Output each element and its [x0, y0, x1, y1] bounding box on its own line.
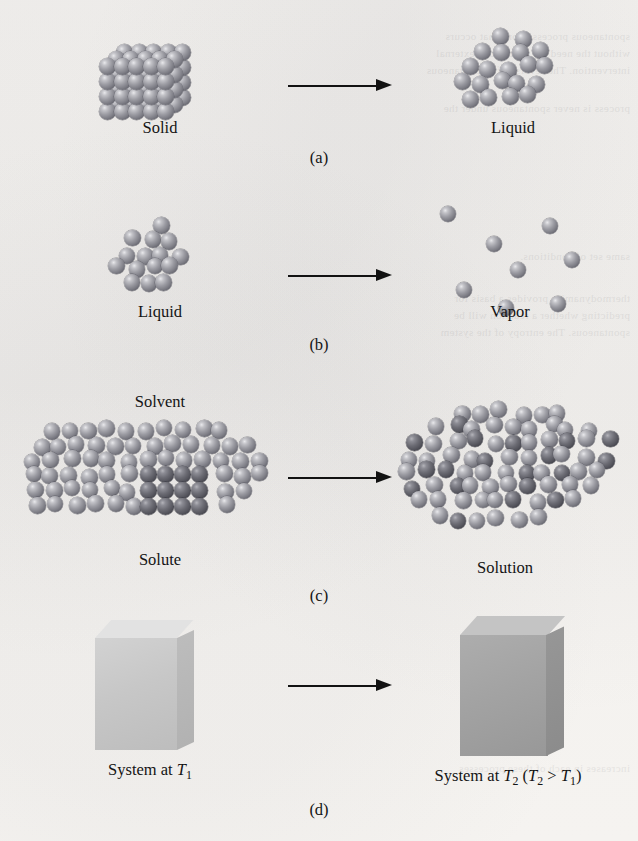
- particle: [540, 476, 557, 493]
- panel-d-left-label-sub: 1: [186, 768, 192, 782]
- particle: [222, 438, 239, 455]
- particle: [553, 446, 570, 463]
- particle: [216, 465, 233, 482]
- solute-particle: [140, 482, 157, 499]
- particle: [493, 44, 510, 61]
- vapor-scatter-illustration: [432, 200, 592, 310]
- panel-d-left-label-prefix: System at: [108, 760, 177, 779]
- panel-b-left-label: Liquid: [100, 302, 220, 322]
- panel-b-right-label: Vapor: [450, 302, 570, 322]
- particle: [486, 417, 503, 434]
- solute-particle: [174, 482, 191, 499]
- particle: [183, 436, 200, 453]
- particle: [44, 423, 61, 440]
- solvent-solute-illustration: [22, 422, 282, 547]
- solute-particle: [438, 461, 455, 478]
- panel-d-right-cmp-op: >: [543, 766, 561, 785]
- solute-particle: [174, 498, 191, 515]
- particle: [432, 507, 449, 524]
- panel-a-letter: (a): [289, 148, 349, 168]
- panel-d-left-label: System at T1: [65, 760, 235, 785]
- particle: [157, 88, 174, 105]
- panel-b-letter: (b): [289, 335, 349, 355]
- particle: [27, 482, 44, 499]
- panel-d-right-label-symbol: T: [503, 766, 512, 785]
- particle: [565, 490, 582, 507]
- particle: [251, 465, 268, 482]
- particle: [474, 43, 491, 60]
- panel-d-right-cmp-symbol2: T: [561, 766, 570, 785]
- solution-illustration: [398, 404, 613, 554]
- panel-a-left-label: Solid: [100, 118, 220, 138]
- particle: [26, 466, 43, 483]
- particle: [239, 437, 256, 454]
- panel-d-right-paren-close: ): [576, 766, 582, 785]
- box-top-face: [95, 620, 193, 638]
- liquid-cluster-illustration-b: [100, 220, 220, 300]
- particle: [462, 91, 479, 108]
- panel-d-right-cmp-symbol: T: [528, 766, 537, 785]
- box-side-face-warm: [546, 627, 564, 756]
- panel-c-right-label: Solution: [440, 558, 570, 578]
- solute-particle: [602, 431, 619, 448]
- particle: [98, 420, 115, 437]
- panel-c-solvent-label: Solvent: [90, 392, 230, 412]
- particle: [541, 431, 558, 448]
- particle: [488, 436, 505, 453]
- solute-particle: [191, 466, 208, 483]
- solute-particle: [547, 492, 564, 509]
- particle: [487, 492, 504, 509]
- particle: [29, 497, 46, 514]
- particle: [64, 450, 81, 467]
- particle: [454, 73, 471, 90]
- spontaneous-processes-figure: spontaneous process is one that occurswi…: [0, 0, 638, 841]
- particle: [492, 28, 509, 45]
- particle: [108, 258, 125, 275]
- particle: [486, 236, 502, 252]
- panel-b: Liquid Vapor (b): [0, 190, 638, 370]
- solute-particle: [174, 466, 191, 483]
- particle: [157, 73, 174, 90]
- particle: [157, 58, 174, 75]
- solute-particle: [505, 491, 522, 508]
- particle: [536, 57, 553, 74]
- particle: [124, 230, 141, 247]
- panel-b-arrow: [288, 268, 392, 284]
- particle: [589, 462, 606, 479]
- panel-c: Solvent Solute Solution (c): [0, 370, 638, 620]
- system-box-warm: [460, 616, 565, 756]
- solute-particle: [140, 466, 157, 483]
- panel-d-letter: (d): [289, 800, 349, 820]
- particle: [542, 218, 558, 234]
- solute-particle: [450, 513, 467, 530]
- particle: [430, 491, 447, 508]
- panel-a-right-label: Liquid: [453, 118, 573, 138]
- particle: [440, 206, 456, 222]
- panel-d-right-paren-open: (: [518, 766, 528, 785]
- panel-d-arrow: [288, 678, 392, 694]
- particle: [69, 497, 86, 514]
- panel-d-left-label-symbol: T: [177, 760, 186, 779]
- solid-lattice-illustration: [95, 28, 225, 118]
- particle: [155, 274, 172, 291]
- particle: [490, 401, 507, 418]
- solute-particle: [191, 482, 208, 499]
- particle: [121, 465, 138, 482]
- solute-particle: [157, 466, 174, 483]
- particle: [42, 452, 59, 469]
- particle: [502, 88, 519, 105]
- panel-c-letter: (c): [289, 586, 349, 606]
- panel-d: System at T1 System at T2 (T2 > T1) (d): [0, 620, 638, 841]
- particle: [519, 86, 536, 103]
- particle: [456, 282, 472, 298]
- particle: [64, 480, 81, 497]
- particle: [411, 491, 428, 508]
- solute-particle: [406, 434, 423, 451]
- solute-particle: [157, 498, 174, 515]
- panel-a-arrow: [288, 78, 392, 94]
- system-box-cool: [95, 620, 195, 750]
- particle: [125, 438, 142, 455]
- particle: [161, 257, 178, 274]
- particle: [583, 477, 600, 494]
- particle: [480, 89, 497, 106]
